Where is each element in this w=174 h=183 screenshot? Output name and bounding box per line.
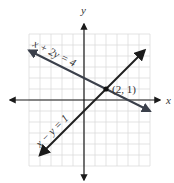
intersection-point: (2, 1): [103, 83, 136, 96]
x-axis-label: x: [165, 94, 171, 106]
graph: x y (2, 1) x + 2y = 4 x − y = 1: [0, 0, 174, 183]
y-axis-label: y: [80, 4, 86, 16]
intersection-label: (2, 1): [112, 83, 136, 96]
intersection-dot: [103, 86, 108, 91]
series-line-1: [29, 51, 150, 112]
axes: x y: [10, 4, 171, 180]
series-line-2: [40, 51, 145, 156]
